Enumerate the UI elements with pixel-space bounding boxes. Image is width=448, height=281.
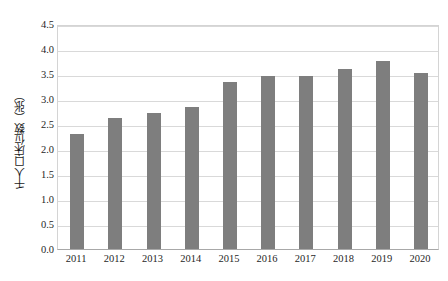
x-axis-tick-label: 2016 bbox=[248, 253, 286, 264]
y-axis-tick-label: 3.5 bbox=[28, 69, 54, 81]
x-axis-tick-label: 2020 bbox=[401, 253, 439, 264]
y-axis-tick-label: 1.5 bbox=[28, 169, 54, 181]
x-axis-tick-label: 2011 bbox=[57, 253, 95, 264]
x-axis-tick-label: 2014 bbox=[172, 253, 210, 264]
bar bbox=[223, 82, 237, 250]
bar-chart-figure: 千人口床位数（张） 4.54.03.53.02.52.01.51.00.50.0… bbox=[0, 0, 448, 281]
bar bbox=[299, 76, 313, 249]
x-axis-tick-label: 2019 bbox=[363, 253, 401, 264]
bar bbox=[376, 61, 390, 249]
y-axis-tick-label: 4.0 bbox=[28, 44, 54, 56]
y-axis-tick-label: 2.5 bbox=[28, 119, 54, 131]
bar bbox=[185, 107, 199, 249]
x-axis-tick-label: 2018 bbox=[325, 253, 363, 264]
y-axis-tick-label: 1.0 bbox=[28, 194, 54, 206]
bar bbox=[70, 134, 84, 249]
x-axis-tick-label: 2017 bbox=[286, 253, 324, 264]
y-axis-tick-label: 3.0 bbox=[28, 94, 54, 106]
bar-series bbox=[58, 26, 438, 249]
bar bbox=[108, 118, 122, 250]
x-axis-tick-label: 2015 bbox=[210, 253, 248, 264]
bar bbox=[147, 113, 161, 250]
plot-area bbox=[57, 25, 439, 250]
x-axis-tick-label: 2013 bbox=[134, 253, 172, 264]
x-axis-tick-label-group: 2011201220132014201520162017201820192020 bbox=[57, 253, 439, 273]
y-axis-tick-label: 2.0 bbox=[28, 144, 54, 156]
bar bbox=[414, 73, 428, 250]
y-axis-tick-label-group: 4.54.03.53.02.52.01.51.00.50.0 bbox=[28, 18, 54, 258]
y-axis-tick-label: 4.5 bbox=[28, 19, 54, 31]
bar bbox=[261, 76, 275, 250]
bar bbox=[338, 69, 352, 249]
x-axis-tick-label: 2012 bbox=[95, 253, 133, 264]
y-axis-tick-label: 0.0 bbox=[28, 244, 54, 256]
y-axis-tick-label: 0.5 bbox=[28, 219, 54, 231]
